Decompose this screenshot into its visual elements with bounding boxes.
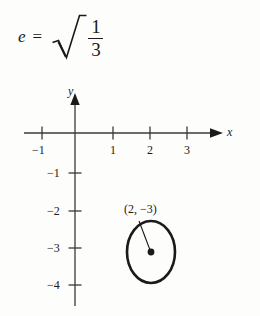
label-leader-line (139, 221, 150, 250)
x-tick-label-1: 1 (110, 144, 116, 156)
center-point-dot (148, 249, 155, 256)
y-tick-label-neg1: −1 (47, 167, 60, 179)
x-axis-label: x (227, 126, 232, 138)
x-tick-label-3: 3 (184, 144, 190, 156)
y-axis (70, 93, 79, 306)
graph-svg (0, 0, 260, 316)
coordinate-graph: x y −1 1 2 3 −1 −2 −3 −4 (2, −3) (0, 0, 260, 316)
y-tick-label-neg3: −3 (47, 242, 60, 254)
y-axis-label: y (68, 85, 73, 97)
figure-container: e = 1 3 (0, 0, 260, 316)
x-tick-label-2: 2 (147, 144, 153, 156)
y-tick-label-neg4: −4 (47, 279, 60, 291)
x-axis (24, 128, 223, 138)
center-point-label: (2, −3) (124, 203, 157, 215)
x-tick-label-neg1: −1 (32, 144, 45, 156)
y-tick-label-neg2: −2 (47, 205, 60, 217)
